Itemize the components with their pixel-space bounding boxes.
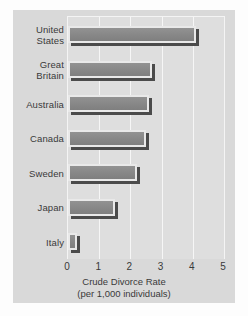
category-label-australia: Australia <box>12 87 64 122</box>
x-tick-label-0: 0 <box>58 261 76 272</box>
bar-row: Italy <box>68 225 224 260</box>
bar-japan <box>68 199 115 216</box>
bar-fill <box>70 97 147 110</box>
x-tick-label-3: 3 <box>152 261 170 272</box>
bar-sweden <box>68 164 137 181</box>
bar-fill <box>70 201 113 214</box>
category-label-line: Britain <box>36 70 64 81</box>
category-label-united-states: UnitedStates <box>12 18 64 53</box>
bar-row: Australia <box>68 87 224 122</box>
bar-row: GreatBritain <box>68 53 224 88</box>
category-label-line: United <box>36 24 64 35</box>
category-label-great-britain: GreatBritain <box>12 53 64 88</box>
category-label-line: Australia <box>26 99 64 110</box>
x-axis-title-sub: (per 1,000 individuals) <box>13 288 235 300</box>
bar-row: Canada <box>68 122 224 157</box>
x-axis: 012345 <box>67 259 224 275</box>
category-label-line: Sweden <box>29 168 64 179</box>
x-tick-label-5: 5 <box>214 261 232 272</box>
category-label-line: States <box>36 35 64 46</box>
bar-fill <box>70 28 194 41</box>
category-label-japan: Japan <box>12 191 64 226</box>
bar-australia <box>68 95 149 112</box>
plot-area: UnitedStatesGreatBritainAustraliaCanadaS… <box>67 16 225 259</box>
x-tick-label-2: 2 <box>120 261 138 272</box>
x-tick-label-1: 1 <box>89 261 107 272</box>
x-axis-title-main: Crude Divorce Rate <box>13 276 235 288</box>
category-label-line: Japan <box>38 202 64 213</box>
bar-fill <box>70 235 75 248</box>
category-label-italy: Italy <box>12 225 64 260</box>
bar-united-states <box>68 26 196 43</box>
bar-fill <box>70 63 150 76</box>
bar-fill <box>70 166 135 179</box>
bar-row: UnitedStates <box>68 18 224 53</box>
category-label-line: Canada <box>30 133 64 144</box>
bar-row: Japan <box>68 191 224 226</box>
category-label-sweden: Sweden <box>12 156 64 191</box>
bar-rows: UnitedStatesGreatBritainAustraliaCanadaS… <box>68 17 224 259</box>
chart-figure: UnitedStatesGreatBritainAustraliaCanadaS… <box>0 0 248 316</box>
bar-great-britain <box>68 61 152 78</box>
category-label-line: Great <box>40 59 64 70</box>
bar-fill <box>70 132 144 145</box>
category-label-line: Italy <box>46 237 64 248</box>
x-axis-title: Crude Divorce Rate (per 1,000 individual… <box>13 276 235 300</box>
bar-italy <box>68 233 77 250</box>
bar-canada <box>68 130 146 147</box>
bar-row: Sweden <box>68 156 224 191</box>
chart-card: UnitedStatesGreatBritainAustraliaCanadaS… <box>13 10 235 303</box>
x-tick-label-4: 4 <box>183 261 201 272</box>
category-label-canada: Canada <box>12 122 64 157</box>
